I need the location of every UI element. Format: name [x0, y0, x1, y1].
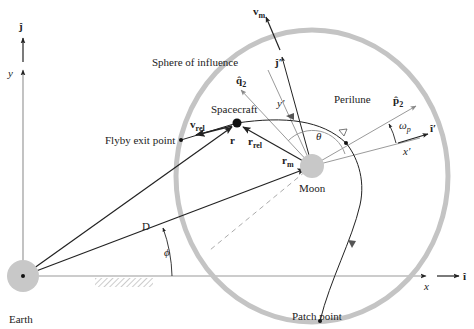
v-rel-label: vrel — [190, 118, 205, 133]
flyby-exit-point-label: Flyby exit point — [105, 134, 175, 146]
flyby-exit-point-dot — [179, 138, 183, 142]
i-hat-prime-label: î′ — [429, 122, 436, 134]
hatched-reference — [95, 278, 153, 287]
perilune-dot — [344, 141, 348, 145]
spacecraft-dot — [233, 119, 242, 128]
i-hat-label: î — [462, 270, 467, 282]
r-m-label: rm — [282, 154, 294, 169]
d-vector — [23, 169, 305, 276]
phi-label: ϕ — [164, 246, 170, 258]
sphere-of-influence-label: Sphere of influence — [152, 56, 238, 68]
earth-label: Earth — [9, 313, 33, 325]
spacecraft-label: Spacecraft — [211, 103, 257, 115]
j-hat-prime-label: ĵ′ — [274, 56, 282, 68]
r-vector — [23, 127, 232, 276]
p2-label: p̂2 — [393, 94, 403, 109]
j-hat-label: ĵ — [18, 20, 23, 32]
trajectory-arrow-lower — [348, 240, 356, 248]
flyby-diagram: Earth Moon Spacecraft Sphere of influenc… — [0, 0, 474, 329]
i-hat-prime-arrow — [398, 134, 428, 143]
earth-center — [21, 274, 25, 278]
perilune-marker — [339, 129, 347, 136]
x-prime-label: x′ — [402, 145, 411, 157]
x-axis-label: x — [423, 280, 429, 292]
distance-d-label: D — [142, 220, 150, 232]
trajectory — [181, 120, 362, 321]
omega-p-label: ωp — [399, 119, 411, 134]
p2-arrow — [312, 106, 416, 166]
q2-label: q̂2 — [236, 74, 246, 89]
y-prime-label: y′ — [276, 97, 285, 109]
moon-label: Moon — [299, 182, 326, 194]
theta-label: θ — [316, 130, 322, 142]
omega-arc — [389, 124, 396, 143]
r-label: r — [230, 134, 235, 146]
y-axis-label: y — [7, 67, 13, 79]
dashed-line — [210, 166, 312, 250]
v-m-label: vm — [253, 5, 266, 20]
patch-point-label: Patch point — [292, 310, 342, 322]
moon-body — [300, 154, 324, 178]
perilune-label: Perilune — [334, 93, 371, 105]
